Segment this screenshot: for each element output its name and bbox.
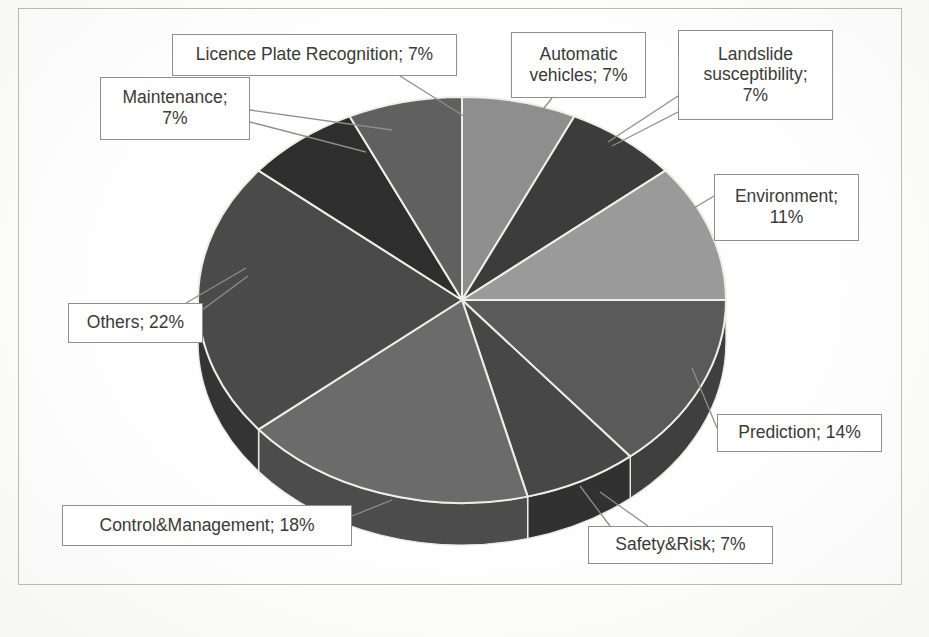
slice-label-environment[interactable]: Environment; 11% (714, 174, 859, 241)
figure-container: Licence Plate Recognition; 7% Maintenanc… (0, 0, 929, 637)
slice-label-safety-and-risk[interactable]: Safety&Risk; 7% (588, 526, 773, 564)
slice-label-control-and-management[interactable]: Control&Management; 18% (62, 505, 352, 546)
slice-label-prediction[interactable]: Prediction; 14% (717, 414, 882, 452)
slice-label-maintenance[interactable]: Maintenance; 7% (100, 77, 250, 140)
pie-top-faces (198, 97, 726, 503)
slice-label-others[interactable]: Others; 22% (68, 303, 203, 343)
slice-label-licence-plate-recognition[interactable]: Licence Plate Recognition; 7% (172, 34, 457, 76)
slice-label-landslide-susceptibility[interactable]: Landslide susceptibility; 7% (678, 30, 833, 120)
slice-label-automatic-vehicles[interactable]: Automatic vehicles; 7% (511, 32, 646, 98)
